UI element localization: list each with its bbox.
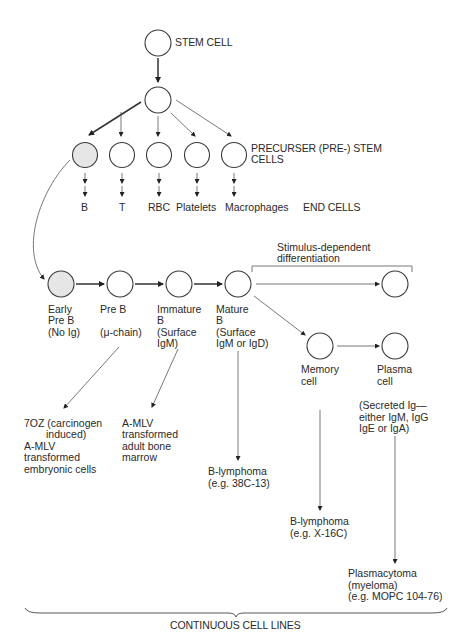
platelet-precursor-circle xyxy=(185,143,210,168)
mature-b-line4: IgM or IgD) xyxy=(216,338,269,350)
end-cell-t: T xyxy=(119,202,125,214)
b-precursor-circle xyxy=(73,143,98,168)
arrow-to-b-precursor xyxy=(89,102,141,135)
mature-b-line2: B xyxy=(216,315,223,327)
plasma-cell-circle xyxy=(382,333,408,359)
continuous-cell-lines-brace xyxy=(25,608,447,617)
b-lymphoma-2-line2: (e.g. X-16C) xyxy=(290,528,347,540)
pre-b-line1: Pre B xyxy=(100,304,126,316)
pre-b-line3: (μ-chain) xyxy=(100,327,142,339)
amlv-line4: marrow xyxy=(122,452,157,464)
immature-b-line4: IgM) xyxy=(157,338,178,350)
arrow-mature-to-memory xyxy=(254,296,305,335)
plasmacytoma-line3: (e.g. MOPC 104-76) xyxy=(348,591,443,603)
arrow-to-macrophage-precursor xyxy=(176,100,231,136)
end-cell-b: B xyxy=(81,202,88,214)
secreted-line3: IgE or IgA) xyxy=(359,423,409,435)
memory-cell-line1: Memory xyxy=(301,364,339,376)
mature-b-circle xyxy=(225,271,251,297)
stem-cell-circle xyxy=(145,30,171,56)
b-lymphoma-1-line2: (e.g. 38C-13) xyxy=(208,478,270,490)
differentiated-cell-circle xyxy=(382,271,408,297)
precursor-label-line2: CELLS xyxy=(251,154,284,166)
oz-line4: transformed xyxy=(24,452,80,464)
arrow-pre-b-to-7oz xyxy=(64,347,119,408)
end-cell-platelets: Platelets xyxy=(176,202,216,214)
plasmacytoma-line1: Plasmacytoma xyxy=(348,568,417,580)
rbc-precursor-circle xyxy=(147,143,172,168)
memory-cell-line2: cell xyxy=(301,376,317,388)
immature-b-circle xyxy=(166,271,192,297)
b-lymphoma-2-line1: B-lymphoma xyxy=(290,516,349,528)
plasma-cell-line2: cell xyxy=(377,376,393,388)
end-cell-macrophages: Macrophages xyxy=(225,202,289,214)
pre-b-circle xyxy=(107,271,133,297)
oz-line2: induced) xyxy=(46,429,86,441)
macrophage-precursor-circle xyxy=(222,143,247,168)
amlv-line2: transformed xyxy=(122,429,178,441)
end-cells-label: END CELLS xyxy=(303,202,360,214)
arrow-to-platelet-precursor xyxy=(171,113,195,136)
immature-b-line2: B xyxy=(157,315,164,327)
end-cell-rbc: RBC xyxy=(148,202,170,214)
stimulus-label-line2: differentiation xyxy=(277,253,340,265)
stem-cell-label: STEM CELL xyxy=(175,37,232,49)
early-pre-b-circle xyxy=(48,271,74,297)
arrow-immature-to-amlv xyxy=(152,349,178,407)
early-pre-b-line2: Pre B xyxy=(48,315,74,327)
oz-line5: embryonic cells xyxy=(24,464,96,476)
early-pre-b-line3: (No Ig) xyxy=(48,327,80,339)
stimulus-bracket xyxy=(252,266,412,272)
b-lymphoma-1-line1: B-lymphoma xyxy=(208,466,267,478)
end-cell-arrows xyxy=(85,173,234,196)
common-precursor-circle xyxy=(145,87,171,113)
t-precursor-circle xyxy=(110,143,135,168)
continuous-cell-lines-label: CONTINUOUS CELL LINES xyxy=(170,620,301,632)
memory-cell-circle xyxy=(307,333,333,359)
secreted-line1: (Secreted Ig— xyxy=(359,400,427,412)
arrow-b-precursor-to-early-pre-b xyxy=(33,160,70,279)
plasma-cell-line1: Plasma xyxy=(377,364,412,376)
